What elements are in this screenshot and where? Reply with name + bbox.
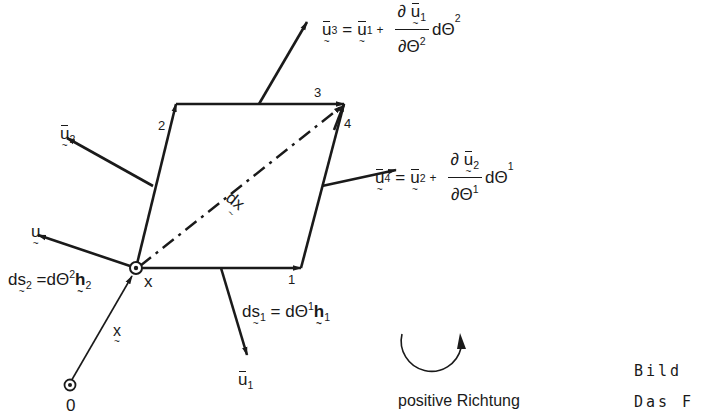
equation-ds1: ds~1 = dΘ1h~1 [242, 300, 330, 323]
position-vector-label: x~ [113, 322, 121, 340]
u2-label: u~2 [60, 124, 75, 145]
caption-line-2: Das F [634, 393, 694, 411]
parallelogram-diagram [0, 0, 701, 416]
rotation-direction-label: positive Richtung [398, 392, 520, 410]
equation-u3: u~3 = u~1 + ∂ u~1 ∂Θ2 dΘ2 [322, 2, 461, 57]
corner-label-1: 1 [288, 272, 295, 287]
corner-label-4: 4 [344, 116, 351, 131]
point-x-label: x [144, 272, 153, 292]
u-label: u~ [31, 222, 40, 242]
point-x-marker [130, 262, 142, 274]
corner-label-2: 2 [158, 118, 165, 133]
equation-ds2: ds~2 =dΘ2h~2 [8, 268, 91, 291]
caption-line-1: Bild [634, 362, 682, 380]
origin-marker [65, 380, 76, 391]
equation-u4: u~4 = u~2 + ∂ u~2 ∂Θ1 dΘ1 [375, 150, 514, 205]
vector-u2 [67, 138, 153, 186]
vector-u [38, 235, 136, 268]
rotation-direction-icon [401, 333, 466, 371]
corner-label-3: 3 [314, 85, 321, 100]
vector-u3 [259, 22, 307, 104]
u1-label: u1 [238, 370, 253, 391]
origin-label: 0 [66, 396, 75, 416]
